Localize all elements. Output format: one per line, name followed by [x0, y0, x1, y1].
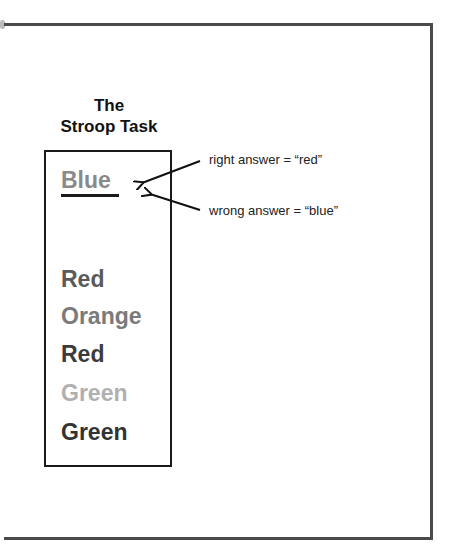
right-answer-arrow-icon [142, 161, 200, 183]
wrong-answer-arrow-icon [150, 194, 200, 210]
annotation-arrows [0, 0, 459, 558]
